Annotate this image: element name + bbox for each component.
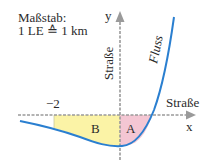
tick-label-neg2: −2 bbox=[46, 96, 60, 111]
river-label: Fluss bbox=[145, 34, 166, 66]
x-axis-label: x bbox=[186, 119, 193, 134]
y-axis-arrow-icon bbox=[116, 11, 125, 22]
scale-value: 1 LE ≙ 1 km bbox=[18, 24, 88, 37]
x-road-label: Straße bbox=[166, 95, 199, 110]
region-a bbox=[120, 115, 152, 146]
region-b bbox=[54, 115, 120, 146]
region-b-label: B bbox=[91, 121, 100, 136]
y-road-label: Straße bbox=[101, 47, 116, 80]
scale-legend: Maßstab: 1 LE ≙ 1 km bbox=[18, 11, 88, 37]
diagram: −2 y x Straße Straße Fluss B A Maßstab: … bbox=[0, 0, 211, 160]
y-axis-label: y bbox=[105, 8, 112, 23]
region-a-label: A bbox=[126, 121, 136, 136]
